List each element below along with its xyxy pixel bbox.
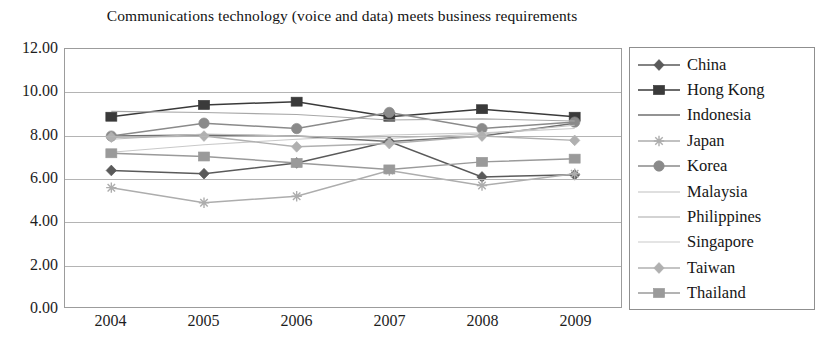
series-taiwan bbox=[106, 131, 580, 152]
legend-key-icon bbox=[636, 56, 682, 74]
legend-label: Korea bbox=[687, 157, 727, 175]
x-axis-tick-label: 2004 bbox=[95, 310, 127, 332]
chart-container: Communications technology (voice and dat… bbox=[0, 0, 821, 359]
data-point-marker bbox=[291, 123, 301, 133]
series-line bbox=[111, 111, 574, 121]
x-axis-labels: 200420052006200720082009 bbox=[64, 310, 622, 336]
data-point-marker bbox=[569, 154, 580, 163]
legend-item-korea[interactable]: Korea bbox=[636, 154, 814, 179]
data-point-marker bbox=[384, 107, 394, 117]
data-point-marker bbox=[199, 152, 210, 161]
legend-key-icon bbox=[636, 284, 682, 302]
y-axis-tick-label: 10.00 bbox=[22, 83, 58, 99]
series-line bbox=[111, 129, 574, 153]
x-axis-tick-label: 2007 bbox=[374, 310, 406, 332]
legend-label: Malaysia bbox=[687, 183, 747, 201]
legend-key-icon bbox=[636, 81, 682, 99]
gridline bbox=[65, 179, 621, 180]
legend-label: Thailand bbox=[687, 284, 746, 302]
series-singapore bbox=[111, 129, 574, 153]
legend-key-icon bbox=[636, 259, 682, 277]
series-philippines bbox=[111, 111, 574, 121]
data-point-marker bbox=[106, 149, 117, 158]
legend-item-philippines[interactable]: Philippines bbox=[636, 204, 814, 229]
plot-area bbox=[64, 48, 622, 308]
data-point-marker bbox=[291, 97, 302, 106]
chart-title: Communications technology (voice and dat… bbox=[62, 6, 622, 26]
data-point-marker bbox=[477, 180, 487, 190]
legend-key-icon bbox=[636, 157, 682, 175]
legend-item-singapore[interactable]: Singapore bbox=[636, 230, 814, 255]
legend-key-icon bbox=[636, 106, 682, 124]
x-axis-tick-label: 2006 bbox=[281, 310, 313, 332]
legend-label: Japan bbox=[687, 132, 725, 150]
data-point-marker bbox=[106, 165, 116, 176]
series-line bbox=[111, 102, 574, 117]
series-japan bbox=[106, 165, 580, 208]
legend-label: Hong Kong bbox=[687, 81, 764, 99]
data-point-marker bbox=[106, 183, 116, 193]
legend-item-japan[interactable]: Japan bbox=[636, 128, 814, 153]
y-axis-tick-label: 0.00 bbox=[30, 300, 58, 316]
data-point-marker bbox=[106, 112, 117, 121]
gridline bbox=[65, 92, 621, 93]
data-point-marker bbox=[291, 191, 301, 201]
y-axis-tick-label: 6.00 bbox=[30, 170, 58, 186]
legend-key-icon bbox=[636, 208, 682, 226]
series-line bbox=[111, 153, 574, 169]
data-point-marker bbox=[199, 100, 210, 109]
legend-item-taiwan[interactable]: Taiwan bbox=[636, 255, 814, 280]
series-china bbox=[106, 136, 580, 182]
y-axis-labels: 0.002.004.006.008.0010.0012.00 bbox=[0, 48, 58, 308]
series-line bbox=[111, 170, 574, 202]
chart-legend: ChinaHong KongIndonesiaJapanKoreaMalaysi… bbox=[629, 47, 815, 310]
legend-label: Philippines bbox=[687, 208, 761, 226]
data-point-marker bbox=[477, 157, 488, 166]
gridline bbox=[65, 266, 621, 267]
legend-item-indonesia[interactable]: Indonesia bbox=[636, 103, 814, 128]
y-axis-tick-label: 4.00 bbox=[30, 213, 58, 229]
legend-key-icon bbox=[636, 132, 682, 150]
data-point-marker bbox=[291, 158, 302, 167]
data-point-marker bbox=[384, 165, 395, 174]
legend-label: Indonesia bbox=[687, 106, 751, 124]
data-point-marker bbox=[477, 105, 488, 114]
y-axis-tick-label: 12.00 bbox=[22, 40, 58, 56]
legend-key-icon bbox=[636, 233, 682, 251]
data-point-marker bbox=[199, 198, 209, 208]
legend-label: China bbox=[687, 56, 726, 74]
series-lines-layer bbox=[65, 49, 621, 307]
legend-item-malaysia[interactable]: Malaysia bbox=[636, 179, 814, 204]
legend-item-hong-kong[interactable]: Hong Kong bbox=[636, 77, 814, 102]
x-axis-tick-label: 2008 bbox=[467, 310, 499, 332]
data-point-marker bbox=[199, 118, 209, 128]
legend-label: Singapore bbox=[687, 233, 754, 251]
legend-label: Taiwan bbox=[687, 259, 735, 277]
y-axis-tick-label: 2.00 bbox=[30, 257, 58, 273]
legend-item-china[interactable]: China bbox=[636, 52, 814, 77]
y-axis-tick-label: 8.00 bbox=[30, 127, 58, 143]
legend-item-thailand[interactable]: Thailand bbox=[636, 281, 814, 306]
data-point-marker bbox=[291, 141, 301, 152]
data-point-marker bbox=[199, 168, 209, 179]
x-axis-tick-label: 2005 bbox=[188, 310, 220, 332]
data-point-marker bbox=[569, 169, 579, 179]
legend-key-icon bbox=[636, 183, 682, 201]
gridline bbox=[65, 222, 621, 223]
gridline bbox=[65, 136, 621, 137]
x-axis-tick-label: 2009 bbox=[560, 310, 592, 332]
